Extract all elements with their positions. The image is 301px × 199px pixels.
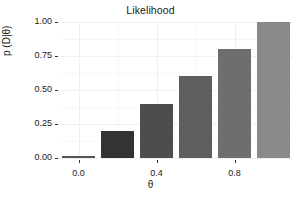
gridline-y — [59, 158, 293, 159]
y-tick-label: 1.00 — [8, 16, 52, 26]
y-tick-mark — [55, 90, 58, 91]
x-axis-title: θ — [0, 179, 301, 190]
y-tick-label: 0.00 — [8, 152, 52, 162]
x-tick-mark — [79, 160, 80, 163]
y-tick-label: 0.75 — [8, 50, 52, 60]
y-tick-mark — [55, 124, 58, 125]
plot-area — [59, 22, 293, 158]
y-tick-mark — [55, 22, 58, 23]
bar — [179, 76, 213, 158]
bar — [257, 22, 291, 158]
y-tick-label: 0.25 — [8, 118, 52, 128]
x-tick-mark — [157, 160, 158, 163]
x-tick-label: 0.8 — [215, 168, 255, 178]
chart-title: Likelihood — [0, 4, 301, 16]
likelihood-bar-chart: Likelihood p (D|θ) θ 0.000.250.500.751.0… — [0, 0, 301, 199]
bar — [218, 49, 252, 158]
x-tick-label: 0.0 — [59, 168, 99, 178]
x-tick-mark — [235, 160, 236, 163]
x-tick-label: 0.4 — [137, 168, 177, 178]
bars-layer — [59, 22, 293, 158]
bar — [140, 104, 174, 158]
y-tick-mark — [55, 56, 58, 57]
y-tick-mark — [55, 158, 58, 159]
bar — [62, 156, 96, 158]
bar — [101, 131, 135, 158]
y-tick-label: 0.50 — [8, 84, 52, 94]
